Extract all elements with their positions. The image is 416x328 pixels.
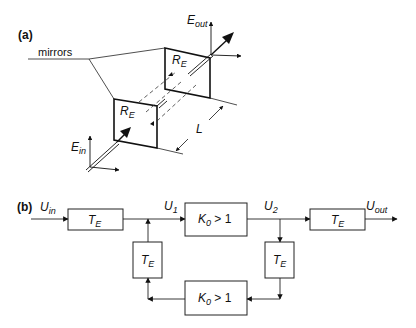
front-mirror-label: RE <box>120 104 136 120</box>
output-signal-label: Uout <box>366 199 388 215</box>
te-output-label: TE <box>331 213 345 229</box>
beam-output-segment <box>211 40 227 55</box>
reflection-arrow-back <box>168 72 173 76</box>
te-input-label: TE <box>88 213 102 229</box>
amp-forward-label: K0 > 1 <box>198 212 232 228</box>
te-feedback-left-label: TE <box>141 253 155 269</box>
reflection-arrow-front <box>150 121 154 126</box>
panel-a: (a) mirrors <box>18 13 241 172</box>
beam-arrow-input <box>120 127 131 138</box>
back-mirror-base-extension <box>210 98 237 105</box>
u1-label: U1 <box>164 199 178 215</box>
panel-b: (b) Uin TE U1 K0 > 1 U2 TE <box>17 199 397 315</box>
te-feedback-right-label: TE <box>273 253 287 269</box>
diagram-canvas: (a) mirrors <box>0 0 416 328</box>
panel-b-label: (b) <box>17 200 32 214</box>
input-signal-label: Uin <box>40 200 56 216</box>
front-mirror-base-extension <box>157 148 183 154</box>
length-label: L <box>196 122 203 136</box>
amp-feedback-label: K0 > 1 <box>198 291 232 307</box>
optical-beam <box>86 54 213 172</box>
back-mirror-label: RE <box>172 53 188 69</box>
panel-a-label: (a) <box>18 28 33 42</box>
input-field-label: Ein <box>71 140 86 156</box>
mirrors-label: mirrors <box>38 46 73 58</box>
output-field-label: Eout <box>187 13 208 29</box>
u2-label: U2 <box>264 199 278 215</box>
cavity-dashed-lines <box>139 72 196 121</box>
